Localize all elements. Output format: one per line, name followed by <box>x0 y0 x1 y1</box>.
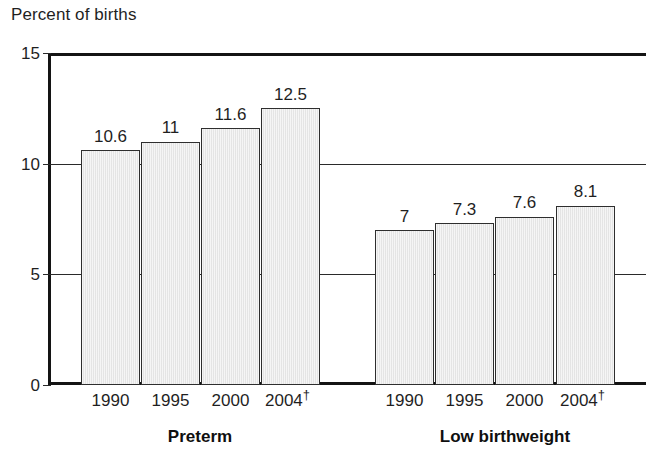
bar-lowbirthweight-1995 <box>435 223 494 385</box>
x-tick-year: 2004 <box>265 391 303 410</box>
axis-frame-left <box>48 53 51 385</box>
bar-value-lowbirthweight-2000: 7.6 <box>495 194 554 211</box>
x-tick-label-lowbirthweight-2000: 2000 <box>495 391 554 410</box>
dagger-symbol: † <box>598 387 605 402</box>
x-tick-year: 1995 <box>152 391 190 410</box>
y-axis-title: Percent of births <box>11 5 136 25</box>
bar-preterm-1990 <box>81 150 140 385</box>
x-tick-year: 1990 <box>92 391 130 410</box>
bar-value-lowbirthweight-1995: 7.3 <box>435 201 494 218</box>
y-tick-label-15: 15 <box>0 45 40 62</box>
x-tick-label-preterm-1990: 1990 <box>81 391 140 410</box>
x-tick-year: 1995 <box>446 391 484 410</box>
y-tick-label-10: 10 <box>0 156 40 173</box>
y-tick-mark-0 <box>43 385 51 386</box>
x-tick-label-lowbirthweight-1990: 1990 <box>375 391 434 410</box>
group-label-low-birthweight: Low birthweight <box>415 427 595 447</box>
y-tick-mark-15 <box>43 53 51 54</box>
bar-value-preterm-1995: 11 <box>141 119 200 136</box>
bar-value-preterm-1990: 10.6 <box>81 128 140 145</box>
bar-value-preterm-2004: 12.5 <box>261 86 320 103</box>
dagger-symbol: † <box>303 387 310 402</box>
x-tick-label-lowbirthweight-2004: 2004† <box>553 391 612 410</box>
x-tick-year: 2000 <box>506 391 544 410</box>
x-tick-label-preterm-1995: 1995 <box>141 391 200 410</box>
x-tick-year: 2000 <box>212 391 250 410</box>
x-tick-label-lowbirthweight-1995: 1995 <box>435 391 494 410</box>
x-tick-year: 1990 <box>386 391 424 410</box>
axis-frame-top <box>48 53 646 56</box>
bar-lowbirthweight-2004 <box>556 206 615 385</box>
y-tick-mark-10 <box>43 164 51 165</box>
bar-value-lowbirthweight-1990: 7 <box>375 208 434 225</box>
bar-value-lowbirthweight-2004: 8.1 <box>556 183 615 200</box>
bar-lowbirthweight-1990 <box>375 230 434 385</box>
y-tick-mark-5 <box>43 274 51 275</box>
x-tick-year: 2004 <box>560 391 598 410</box>
x-tick-label-preterm-2004: 2004† <box>258 391 317 410</box>
bar-preterm-1995 <box>141 142 200 386</box>
y-tick-label-0: 0 <box>0 377 40 394</box>
bar-preterm-2004 <box>261 108 320 385</box>
bar-lowbirthweight-2000 <box>495 217 554 385</box>
bar-value-preterm-2000: 11.6 <box>201 106 260 123</box>
bar-preterm-2000 <box>201 128 260 385</box>
y-tick-label-5: 5 <box>0 266 40 283</box>
x-tick-label-preterm-2000: 2000 <box>201 391 260 410</box>
group-label-preterm: Preterm <box>120 427 280 447</box>
